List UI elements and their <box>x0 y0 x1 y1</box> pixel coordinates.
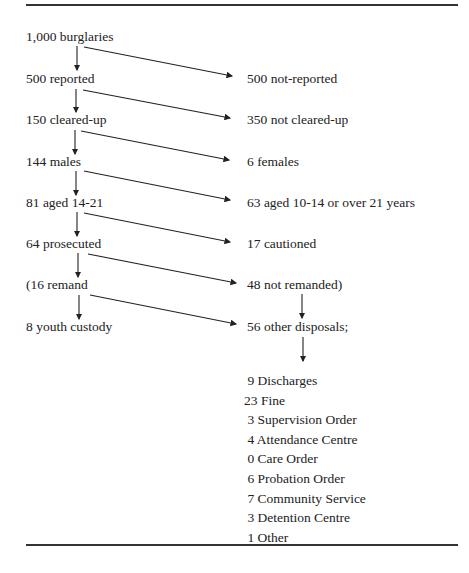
disposal-item: 23 Fine <box>244 391 366 411</box>
node-aged-14-21: 81 aged 14-21 <box>26 195 103 211</box>
disposal-item: 0 Care Order <box>244 449 366 469</box>
node-males: 144 males <box>26 154 81 170</box>
node-remand: (16 remand <box>26 277 88 293</box>
bottom-rule <box>26 544 458 546</box>
disposal-item: 4 Attendance Centre <box>244 430 366 450</box>
disposal-item: 9 Discharges <box>244 371 366 391</box>
node-not-reported: 500 not-reported <box>247 71 337 87</box>
disposals-list: 9 Discharges 23 Fine 3 Supervision Order… <box>244 371 366 547</box>
disposal-item: 7 Community Service <box>244 489 366 509</box>
node-cleared-up: 150 cleared-up <box>26 112 107 128</box>
disposal-item: 6 Probation Order <box>244 469 366 489</box>
node-females: 6 females <box>247 154 299 170</box>
disposal-item: 3 Supervision Order <box>244 410 366 430</box>
node-not-remanded: 48 not remanded) <box>247 277 342 293</box>
node-not-cleared-up: 350 not cleared-up <box>247 112 348 128</box>
node-prosecuted: 64 prosecuted <box>26 236 101 252</box>
node-other-age: 63 aged 10-14 or over 21 years <box>247 195 415 211</box>
node-youth-custody: 8 youth custody <box>26 319 112 335</box>
node-cautioned: 17 cautioned <box>247 236 316 252</box>
node-burglaries: 1,000 burglaries <box>26 29 114 45</box>
node-other-disposals: 56 other disposals; <box>247 319 348 335</box>
disposal-item: 3 Detention Centre <box>244 508 366 528</box>
node-reported: 500 reported <box>26 71 95 87</box>
